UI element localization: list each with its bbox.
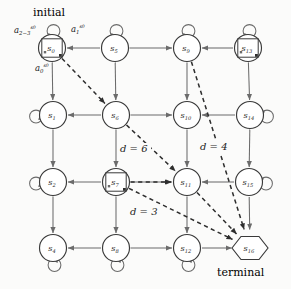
state-node-s2[interactable]: s2 [40,169,67,196]
state-node-s14[interactable]: s14 [237,102,264,129]
state-transition-diagram: s0s5s9s13s1s6s10s14s2s7s11s15s4s8s12s16 … [0,0,291,289]
state-node-s7[interactable]: s7 [103,169,130,196]
state-node-s4[interactable]: s4 [40,235,67,262]
state-box-handle-right [59,54,62,57]
state-node-s9[interactable]: s9 [174,35,201,62]
state-diagram-canvas: s0s5s9s13s1s6s10s14s2s7s11s15s4s8s12s16 … [0,0,291,289]
state-node-s11[interactable]: s11 [174,169,201,196]
state-node-s12[interactable]: s12 [174,235,201,262]
shortcut-edge-s11-s16 [197,193,237,234]
transition-edge [249,197,250,230]
shortcut-edge-s0-s6 [62,59,105,104]
distance-label-d3: d = 3 [130,206,158,217]
transition-edge [249,130,250,167]
state-node-s13[interactable]: s13 [235,35,262,62]
state-node-s0[interactable]: s0 [39,35,66,62]
action-label-a23: a2−3s0 [14,25,36,36]
action-label-a1: a1s0 [71,24,85,35]
action-label-a0: a0s0 [35,63,49,74]
state-node-s5[interactable]: s5 [102,35,129,62]
state-node-s16[interactable]: s16 [232,237,268,260]
transition-edge [115,63,116,100]
distance-label-d6: d = 6 [120,143,148,154]
state-node-s1[interactable]: s1 [40,102,67,129]
distance-label-d4: d = 4 [200,141,228,152]
state-node-s15[interactable]: s15 [236,169,263,196]
transition-edge [52,63,53,100]
state-box-handle-left [108,185,110,187]
state-box-handle-left [44,51,46,53]
state-node-s10[interactable]: s10 [174,102,201,129]
state-box-handle-right [255,54,258,57]
transition-edge [248,63,249,100]
nodes-layer: s0s5s9s13s1s6s10s14s2s7s11s15s4s8s12s16 [39,35,269,262]
state-node-s8[interactable]: s8 [103,235,130,262]
state-box-handle-right [123,188,126,191]
state-node-s6[interactable]: s6 [103,102,130,129]
